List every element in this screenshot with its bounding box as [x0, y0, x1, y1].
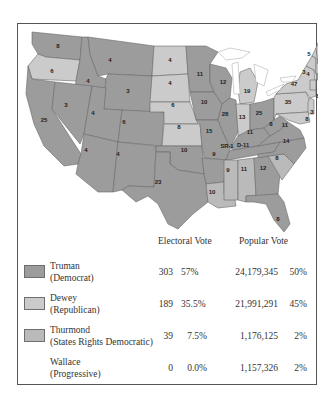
state-sd: [150, 74, 190, 102]
state-ct: [310, 80, 316, 90]
svg-text:10: 10: [201, 99, 208, 105]
svg-text:15: 15: [206, 128, 213, 134]
svg-text:10: 10: [209, 189, 216, 195]
popular-vote-percent: 45%: [282, 299, 307, 309]
legend-row-dewey: Dewey (Republican) 189 35.5% 21,991,291 …: [18, 293, 318, 323]
legend-row-thurmond: Thurmond (States Rights Democratic) 39 7…: [18, 325, 318, 355]
candidate-label: Wallace (Progressive): [50, 357, 101, 380]
popular-vote-percent: 2%: [282, 363, 307, 373]
electoral-vote-count: 0: [151, 363, 173, 373]
svg-text:5: 5: [307, 51, 311, 57]
candidate-label: Thurmond (States Rights Democratic): [50, 325, 153, 348]
popular-vote-percent: 2%: [282, 331, 307, 341]
electoral-vote-count: 303: [151, 267, 173, 277]
svg-text:11: 11: [197, 71, 204, 77]
candidate-name: Truman: [50, 261, 94, 273]
state-az: [76, 134, 118, 192]
popular-vote-count: 1,176,125: [218, 331, 278, 341]
electoral-vote-percent: 7.5%: [173, 331, 207, 341]
lake-michigan: [232, 62, 240, 94]
svg-text:SR-1: SR-1: [220, 143, 234, 149]
svg-text:12: 12: [220, 79, 227, 85]
electoral-vote-header: Electoral Vote: [158, 236, 212, 246]
candidate-name: Wallace: [50, 357, 101, 369]
state-ma: [316, 74, 318, 80]
truman-color-swatch: [24, 265, 45, 278]
svg-text:25: 25: [256, 110, 263, 116]
candidate-party: (States Rights Democratic): [50, 337, 153, 349]
svg-text:11: 11: [282, 122, 289, 128]
svg-text:19: 19: [244, 88, 251, 94]
state-ms: [224, 160, 238, 200]
popular-vote-header: Popular Vote: [239, 236, 288, 246]
svg-text:13: 13: [239, 114, 246, 120]
state-nm: [113, 142, 156, 192]
svg-text:47: 47: [291, 81, 298, 87]
us-electoral-map: 8 6 25 4 3 4 3 4 6 4 4 4 4 6 8 10 23 11 …: [18, 24, 318, 234]
candidate-label: Truman (Democrat): [50, 261, 94, 284]
popular-vote-count: 24,179,345: [218, 267, 278, 277]
election-map-figure: 8 6 25 4 3 4 3 4 6 4 4 4 4 6 8 10 23 11 …: [17, 23, 317, 385]
legend-row-wallace: Wallace (Progressive) 0 0.0% 1,157,326 2…: [18, 357, 318, 387]
candidate-name: Thurmond: [50, 325, 153, 337]
state-ks: [162, 124, 202, 146]
electoral-vote-percent: 57%: [181, 267, 211, 277]
electoral-vote-percent: 35.5%: [181, 299, 211, 309]
svg-text:23: 23: [155, 179, 162, 185]
popular-vote-percent: 50%: [282, 267, 307, 277]
svg-text:11: 11: [241, 166, 248, 172]
popular-vote-count: 21,991,291: [218, 299, 278, 309]
electoral-vote-count: 189: [151, 299, 173, 309]
svg-text:35: 35: [285, 99, 292, 105]
svg-text:D-11: D-11: [237, 142, 250, 148]
state-co: [118, 110, 164, 146]
candidate-party: (Progressive): [50, 369, 101, 381]
electoral-vote-count: 39: [151, 331, 173, 341]
lake-superior: [218, 48, 250, 60]
svg-text:14: 14: [283, 138, 290, 144]
legend-row-truman: Truman (Democrat) 303 57% 24,179,345 50%: [18, 261, 318, 291]
candidate-label: Dewey (Republican): [50, 293, 100, 316]
thurmond-color-swatch: [24, 329, 45, 342]
svg-text:10: 10: [181, 147, 188, 153]
dewey-color-swatch: [24, 297, 45, 310]
svg-text:11: 11: [247, 129, 254, 135]
candidate-party: (Republican): [50, 305, 100, 317]
state-mt: [88, 37, 154, 76]
state-fl: [246, 194, 290, 232]
svg-text:25: 25: [41, 117, 48, 123]
electoral-vote-percent: 0.0%: [173, 363, 207, 373]
svg-text:8: 8: [316, 93, 318, 99]
candidate-party: (Democrat): [50, 273, 94, 285]
svg-text:28: 28: [222, 111, 229, 117]
popular-vote-count: 1,157,326: [218, 363, 278, 373]
state-ar: [202, 158, 226, 184]
svg-text:12: 12: [260, 165, 267, 171]
candidate-name: Dewey: [50, 293, 100, 305]
